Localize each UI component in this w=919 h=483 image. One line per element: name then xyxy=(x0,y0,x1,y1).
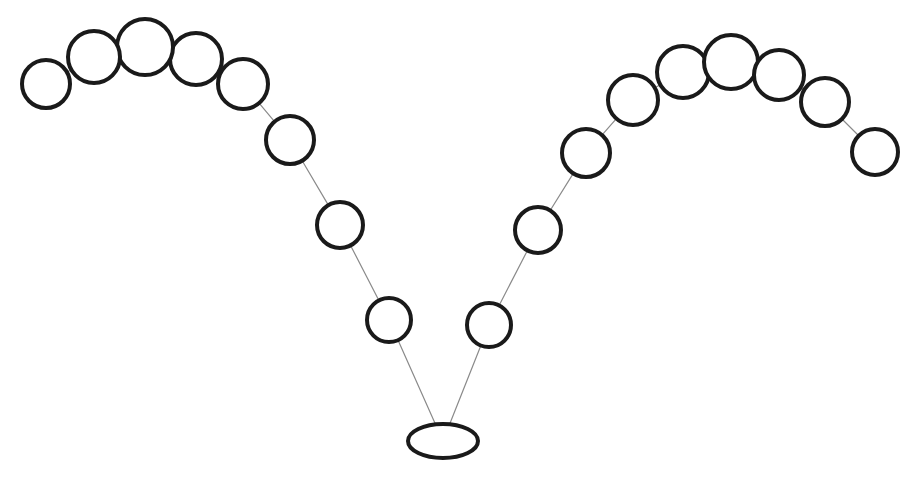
diagram-canvas xyxy=(0,0,919,483)
graph-node[interactable] xyxy=(317,202,363,248)
node-layer xyxy=(22,19,898,458)
graph-node[interactable] xyxy=(801,78,849,126)
graph-edge xyxy=(259,103,274,121)
graph-edge xyxy=(450,345,481,424)
graph-node[interactable] xyxy=(852,129,898,175)
graph-node[interactable] xyxy=(68,31,120,83)
graph-edge xyxy=(302,161,328,205)
graph-node[interactable] xyxy=(367,298,411,342)
graph-node[interactable] xyxy=(266,116,314,164)
graph-node[interactable] xyxy=(562,129,610,177)
graph-node[interactable] xyxy=(22,60,70,108)
edge-layer xyxy=(67,52,859,424)
graph-node[interactable] xyxy=(170,33,222,85)
graph-edge xyxy=(351,245,379,300)
graph-edge xyxy=(398,340,436,424)
graph-node[interactable] xyxy=(608,75,658,125)
graph-node[interactable] xyxy=(218,59,268,109)
graph-edge xyxy=(550,173,573,210)
graph-node[interactable] xyxy=(704,35,758,89)
graph-edge xyxy=(842,119,859,136)
graph-node[interactable] xyxy=(754,50,804,100)
graph-edge xyxy=(499,250,527,305)
graph-edge xyxy=(602,119,616,135)
graph-node[interactable] xyxy=(117,19,173,75)
graph-node[interactable] xyxy=(657,46,709,98)
graph-node[interactable] xyxy=(515,207,561,253)
graph-svg xyxy=(0,0,919,483)
root-node[interactable] xyxy=(408,424,478,458)
graph-node[interactable] xyxy=(467,303,511,347)
